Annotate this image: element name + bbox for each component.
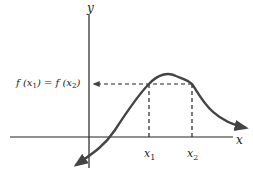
x-axis-label: x xyxy=(236,133,243,147)
function-curve xyxy=(76,74,246,165)
equation-label: f (x1) = f (x2) xyxy=(15,77,80,90)
function-diagram: y x x1 x2 f (x1) = f (x2) xyxy=(0,0,253,182)
y-axis-label: y xyxy=(86,1,94,15)
x2-label: x2 xyxy=(187,147,198,162)
x1-label: x1 xyxy=(144,147,155,162)
